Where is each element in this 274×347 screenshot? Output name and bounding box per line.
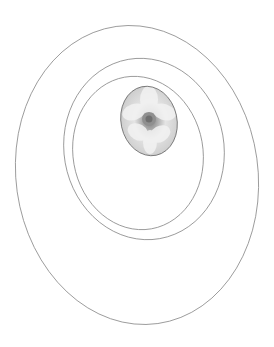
outer-ellipse (0, 10, 274, 341)
flower-photo (115, 80, 185, 165)
nested-ellipses-drawing (0, 0, 274, 347)
